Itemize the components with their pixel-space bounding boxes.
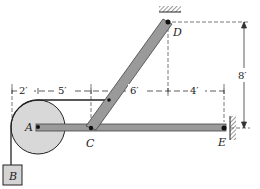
label-a: A xyxy=(24,121,33,134)
frame-diagram: A B C D E 2′ 5′ 6′ 4′ 8′ xyxy=(0,0,260,189)
label-b: B xyxy=(8,170,17,183)
pin-d xyxy=(166,20,171,25)
pin-e xyxy=(222,126,227,131)
label-d: D xyxy=(172,26,182,39)
dimension-2ft: 2′ xyxy=(19,85,28,96)
member-cd xyxy=(86,19,172,130)
member-ae xyxy=(36,124,226,131)
dimension-6ft: 6′ xyxy=(130,85,139,96)
pin-a xyxy=(36,125,40,129)
dimension-5ft: 5′ xyxy=(58,85,67,96)
dimension-8ft: 8′ xyxy=(238,70,247,81)
dimension-4ft: 4′ xyxy=(190,85,199,96)
ceiling-support-d xyxy=(159,6,181,12)
pin-c xyxy=(89,126,93,130)
label-c: C xyxy=(86,137,95,150)
label-e: E xyxy=(217,136,226,149)
rope-attach-point xyxy=(107,98,111,102)
